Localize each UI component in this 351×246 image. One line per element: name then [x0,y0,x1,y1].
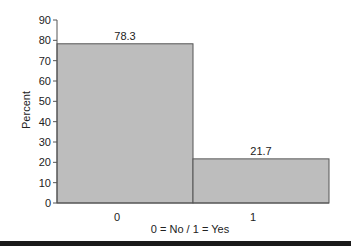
bar-1 [193,159,329,203]
y-tick-label: 50 [39,95,51,107]
y-tick-label: 40 [39,116,51,128]
bar-chart: 78.3021.710102030405060708090Percent0 = … [0,0,351,246]
y-tick-label: 90 [39,14,51,26]
x-tick-label: 0 [114,211,120,223]
y-tick-label: 20 [39,156,51,168]
y-tick-label: 60 [39,75,51,87]
data-label: 78.3 [114,30,135,42]
y-axis-title: Percent [20,91,32,129]
y-tick-label: 70 [39,55,51,67]
y-tick-label: 0 [45,197,51,209]
x-axis-title: 0 = No / 1 = Yes [151,223,230,235]
bar-0 [57,44,193,203]
bottom-border-band [0,241,351,246]
data-label: 21.7 [250,145,271,157]
y-tick-label: 30 [39,136,51,148]
x-tick-label: 1 [250,211,256,223]
y-tick-label: 10 [39,177,51,189]
y-tick-label: 80 [39,34,51,46]
